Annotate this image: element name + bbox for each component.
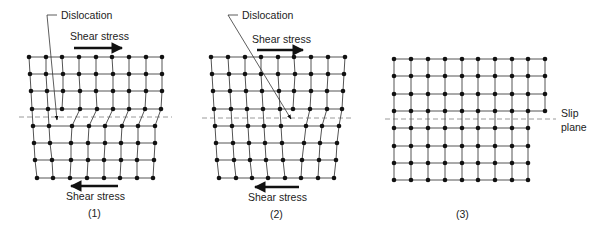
shear-stress-bottom-label: Shear stress bbox=[248, 191, 307, 203]
panel-1: Dislocation Shear stress Shear stress (1… bbox=[19, 9, 172, 219]
panel-3: Slip plane (3) bbox=[385, 57, 587, 220]
slip-plane-label-line1: Slip bbox=[561, 107, 579, 119]
dislocation-label: Dislocation bbox=[61, 9, 113, 21]
dislocation-diagram: Dislocation Shear stress Shear stress (1… bbox=[0, 0, 602, 233]
panel-caption-2: (2) bbox=[270, 208, 283, 220]
panel-caption-1: (1) bbox=[88, 207, 101, 219]
dislocation-leader-arrow bbox=[47, 15, 57, 120]
slip-plane-label-line2: plane bbox=[561, 121, 587, 133]
dislocation-label: Dislocation bbox=[242, 9, 294, 21]
dislocation-leader-arrow bbox=[228, 15, 291, 119]
panel-2: Dislocation Shear stress Shear stress (2… bbox=[202, 9, 354, 220]
shear-stress-top-label: Shear stress bbox=[70, 30, 129, 42]
panel-caption-3: (3) bbox=[456, 208, 469, 220]
shear-stress-top-label: Shear stress bbox=[252, 33, 311, 45]
shear-stress-bottom-label: Shear stress bbox=[66, 190, 125, 202]
